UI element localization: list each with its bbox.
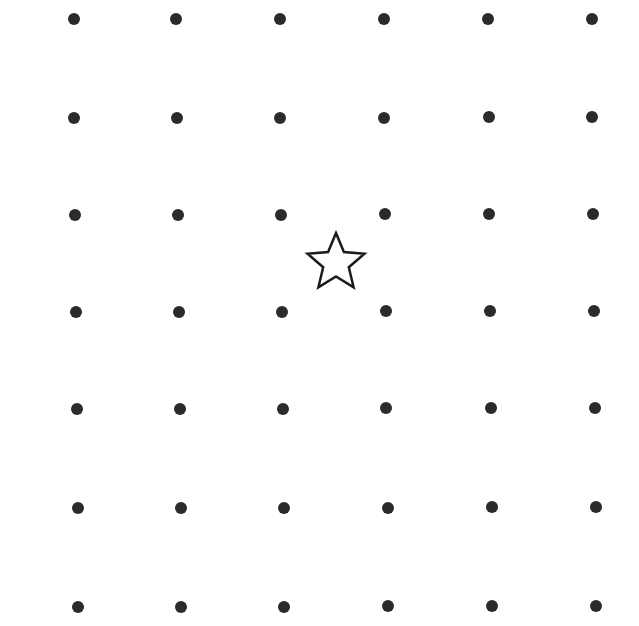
grid-dot [378,13,390,25]
grid-dot [590,600,602,612]
grid-dot [588,305,600,317]
grid-dot [278,502,290,514]
grid-dot [485,402,497,414]
grid-dot [379,208,391,220]
grid-dot [486,600,498,612]
grid-dot [589,402,601,414]
grid-dot [278,601,290,613]
grid-dot [70,306,82,318]
grid-dot [174,403,186,415]
grid-dot [482,13,494,25]
grid-dot [378,112,390,124]
grid-dot [380,305,392,317]
grid-dot [586,111,598,123]
grid-dot [483,208,495,220]
grid-dot [275,209,287,221]
grid-dot [175,601,187,613]
grid-dot [380,402,392,414]
grid-dot [173,306,185,318]
dot-grid-canvas [0,0,639,626]
grid-dot [590,501,602,513]
grid-dot [277,403,289,415]
grid-dot [483,111,495,123]
grid-dot [382,600,394,612]
grid-dot [68,112,80,124]
grid-dot [587,208,599,220]
grid-dot [586,13,598,25]
grid-dot [484,305,496,317]
grid-dot [170,13,182,25]
grid-dot [175,502,187,514]
grid-dot [382,502,394,514]
grid-dot [69,209,81,221]
grid-dot [72,601,84,613]
grid-dot [68,13,80,25]
grid-dot [172,209,184,221]
grid-dot [486,501,498,513]
grid-dot [276,306,288,318]
grid-dot [171,112,183,124]
grid-dot [71,403,83,415]
grid-dot [274,13,286,25]
grid-dot [274,112,286,124]
grid-dot [72,502,84,514]
star-icon [304,229,368,297]
